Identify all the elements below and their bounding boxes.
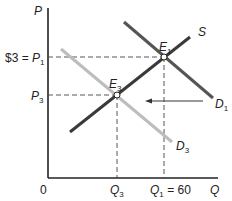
x-axis-label: Q (210, 183, 219, 197)
shift-arrow-head-icon (145, 99, 152, 104)
demand-d1-label: D1 (215, 97, 229, 113)
q1-tick-label: Q1 = 60 (150, 183, 191, 199)
p3-tick-label: P3 (31, 89, 44, 105)
equilibrium-e3-label: E3 (109, 77, 122, 93)
equilibrium-e1-label: E1 (159, 40, 172, 56)
y-axis-label: P (34, 4, 42, 18)
supply-demand-chart: P Q 0 $3 = P1 P3 Q3 Q1 = 60 S D1 D3 E1 E… (0, 0, 232, 201)
origin-label: 0 (40, 183, 47, 197)
supply-curve-label: S (198, 25, 206, 39)
demand-d3-label: D3 (176, 139, 190, 155)
p1-tick-label: $3 = P1 (5, 51, 45, 67)
supply-curve-s (70, 37, 190, 132)
q3-tick-label: Q3 (110, 183, 124, 199)
